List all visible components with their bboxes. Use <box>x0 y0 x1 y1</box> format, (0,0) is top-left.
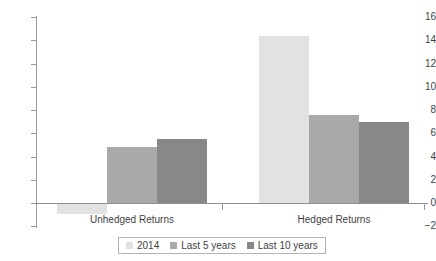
y-axis-line <box>36 16 37 228</box>
y-axis-tick-label: 6 <box>410 128 436 138</box>
legend-label: 2014 <box>137 241 159 251</box>
y-axis-tick <box>31 180 36 181</box>
category-label: Hedged Returns <box>264 214 404 226</box>
bar <box>57 204 107 214</box>
legend-swatch-icon <box>126 242 133 249</box>
legend-swatch-icon <box>170 242 177 249</box>
y-axis-tick-label: −2 <box>410 221 436 231</box>
category-tick-2 <box>424 203 425 210</box>
chart-legend: 2014Last 5 yearsLast 10 years <box>118 237 326 254</box>
y-axis-tick-label: 0 <box>410 198 436 208</box>
y-axis-tick <box>31 203 36 204</box>
y-axis-tick <box>31 157 36 158</box>
category-label: Unhedged Returns <box>62 214 202 226</box>
legend-item: Last 10 years <box>247 241 318 251</box>
bar <box>359 122 409 203</box>
legend-item: 2014 <box>126 241 159 251</box>
legend-swatch-icon <box>247 242 254 249</box>
category-tick-1 <box>222 203 223 210</box>
y-axis-tick-label: 14 <box>410 35 436 45</box>
y-axis-tick <box>31 64 36 65</box>
y-axis-tick <box>31 226 36 227</box>
bar <box>259 36 309 203</box>
y-axis-tick <box>31 87 36 88</box>
y-axis-tick-label: 12 <box>410 59 436 69</box>
legend-label: Last 10 years <box>258 241 318 251</box>
legend-label: Last 5 years <box>181 241 235 251</box>
y-axis-tick <box>31 133 36 134</box>
y-axis-tick-label: 8 <box>410 105 436 115</box>
bar <box>309 115 359 203</box>
y-axis-tick-label: 16 <box>410 12 436 22</box>
y-axis-tick <box>31 110 36 111</box>
y-axis-tick-label: 2 <box>410 175 436 185</box>
bar-chart: 1614121086420−2 Unhedged ReturnsHedged R… <box>0 0 436 261</box>
y-axis-tick <box>31 40 36 41</box>
legend-item: Last 5 years <box>170 241 235 251</box>
bar <box>107 147 157 203</box>
bar <box>157 139 207 203</box>
y-axis-tick-label: 10 <box>410 82 436 92</box>
y-axis-tick-label: 4 <box>410 152 436 162</box>
y-axis-tick <box>31 17 36 18</box>
